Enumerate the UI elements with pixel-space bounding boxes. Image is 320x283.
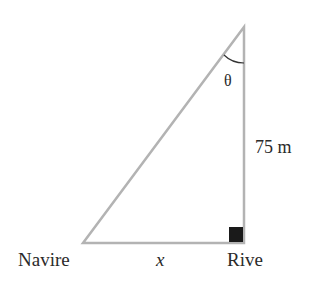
base-label: x	[155, 249, 165, 270]
height-label: 75 m	[255, 137, 292, 157]
right-angle-marker	[229, 227, 243, 242]
angle-label: θ	[224, 72, 232, 89]
right-vertex-label: Rive	[227, 249, 263, 270]
angle-arc	[224, 55, 244, 63]
triangle	[83, 27, 244, 243]
left-vertex-label: Navire	[18, 249, 70, 270]
triangle-diagram: θ 75 m Navire x Rive	[0, 0, 320, 283]
